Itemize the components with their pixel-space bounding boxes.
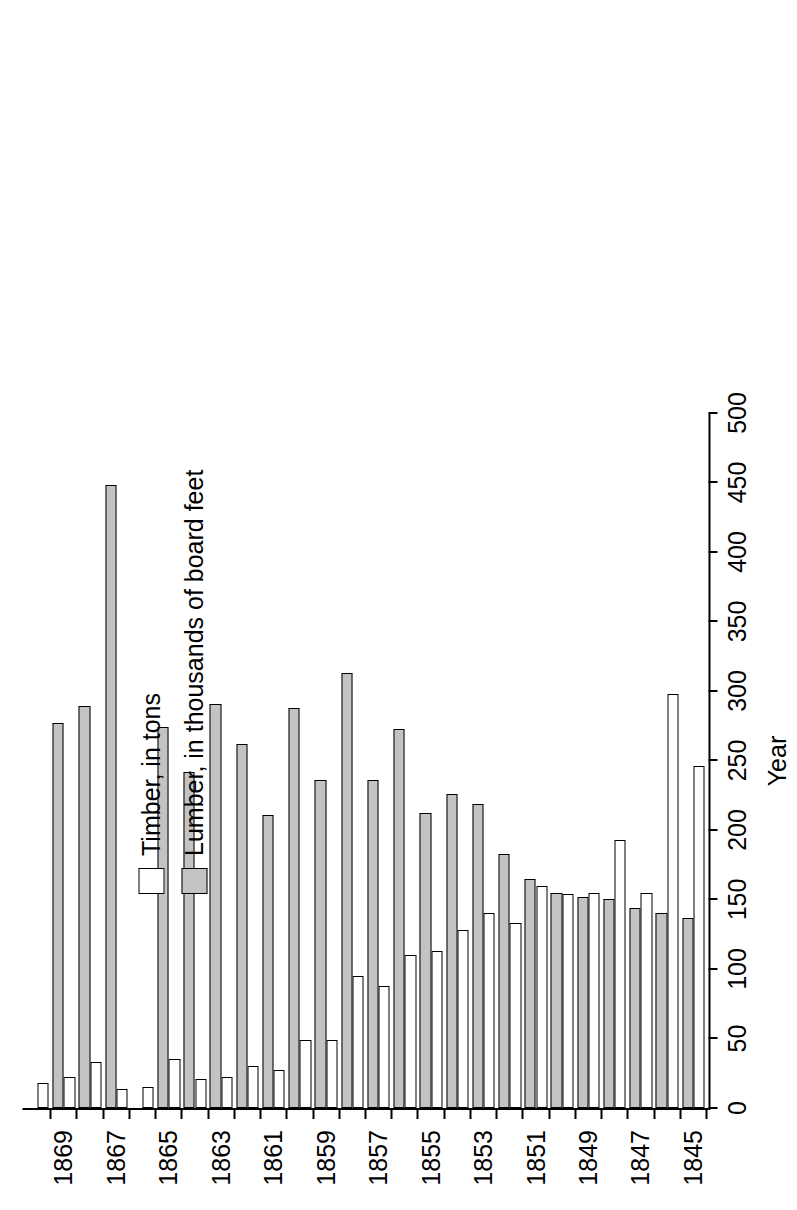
bar-timber-1852 xyxy=(509,923,520,1108)
gray-square-swatch-icon xyxy=(181,868,207,894)
category-axis-tick xyxy=(443,1110,445,1119)
bar-timber-1860 xyxy=(299,1040,310,1108)
bar-lumber-1868 xyxy=(78,706,89,1108)
bar-lumber-1858 xyxy=(341,673,352,1108)
bar-lumber-1845 xyxy=(682,918,693,1108)
value-axis-tick xyxy=(708,899,717,901)
category-axis-tick xyxy=(653,1110,655,1119)
bar-timber-1845 xyxy=(693,766,704,1108)
category-axis-title: Year xyxy=(762,736,791,787)
value-axis-tick xyxy=(708,1038,717,1040)
bar-lumber-1862 xyxy=(236,744,247,1108)
bar-timber-1863 xyxy=(221,1077,232,1108)
category-axis-tick xyxy=(390,1110,392,1119)
value-axis-tick-label: 150 xyxy=(722,879,751,921)
value-axis-tick-label: 500 xyxy=(722,392,751,434)
category-axis-tick xyxy=(548,1110,550,1119)
bar-timber-1850 xyxy=(562,894,573,1108)
category-axis-tick-label: 1849 xyxy=(573,1130,602,1186)
value-axis-tick xyxy=(708,412,717,414)
value-axis-tick-label: 300 xyxy=(722,670,751,712)
bar-chart-figure: 050100150200250300350400450500 184518471… xyxy=(0,0,797,1210)
category-axis-tick-label: 1857 xyxy=(364,1130,393,1186)
category-axis-tick xyxy=(49,1110,51,1119)
value-axis-tick-label: 350 xyxy=(722,601,751,643)
value-axis-tick xyxy=(708,621,717,623)
category-axis-tick-label: 1853 xyxy=(469,1130,498,1186)
bar-lumber-1851 xyxy=(524,879,535,1108)
bar-lumber-1869 xyxy=(52,723,63,1108)
category-axis-tick xyxy=(574,1110,576,1119)
category-axis-tick xyxy=(521,1110,523,1119)
category-axis-tick xyxy=(679,1110,681,1119)
value-axis-tick-label: 50 xyxy=(722,1025,751,1053)
category-axis-tick xyxy=(102,1110,104,1119)
bar-lumber-1847 xyxy=(629,908,640,1108)
bar-timber-1847 xyxy=(640,893,651,1108)
value-axis-tick-label: 400 xyxy=(722,531,751,573)
value-axis-tick xyxy=(708,482,717,484)
value-axis-tick-label: 450 xyxy=(722,462,751,504)
bar-timber-1854 xyxy=(457,930,468,1108)
value-axis-tick xyxy=(708,760,717,762)
bar-timber-1853 xyxy=(483,913,494,1108)
category-axis-tick xyxy=(180,1110,182,1119)
value-axis-tick-label: 100 xyxy=(722,948,751,990)
bar-lumber-1848 xyxy=(603,900,614,1109)
value-axis-tick-label: 250 xyxy=(722,740,751,782)
plot-area: 050100150200250300350400450500 184518471… xyxy=(0,0,797,1210)
bar-lumber-1861 xyxy=(262,815,273,1108)
value-axis-line xyxy=(708,413,710,1110)
value-axis-tick xyxy=(708,1107,717,1109)
bar-timber-1848 xyxy=(614,840,625,1108)
bar-lumber-1857 xyxy=(367,780,378,1108)
bar-lumber-1867 xyxy=(105,485,116,1108)
category-axis-tick xyxy=(600,1110,602,1119)
category-axis-tick xyxy=(128,1110,130,1119)
bar-timber-1864 xyxy=(195,1079,206,1108)
category-axis-tick xyxy=(495,1110,497,1119)
value-axis-tick xyxy=(708,551,717,553)
category-axis-tick-label: 1861 xyxy=(259,1130,288,1186)
bar-lumber-1856 xyxy=(393,729,404,1108)
category-axis-tick-label: 1851 xyxy=(521,1130,550,1186)
bar-lumber-1854 xyxy=(446,794,457,1108)
category-axis-tick xyxy=(312,1110,314,1119)
category-axis-tick-label: 1865 xyxy=(154,1130,183,1186)
bar-timber-1862 xyxy=(247,1066,258,1108)
bar-timber-1857 xyxy=(378,986,389,1108)
category-axis-tick xyxy=(233,1110,235,1119)
bar-timber-1865 xyxy=(168,1059,179,1108)
bar-lumber-1853 xyxy=(472,804,483,1108)
category-axis-tick xyxy=(154,1110,156,1119)
category-axis-tick-label: 1847 xyxy=(626,1130,655,1186)
category-axis-tick xyxy=(75,1110,77,1119)
category-axis-tick-label: 1859 xyxy=(311,1130,340,1186)
legend-label-timber: Timber, in tons xyxy=(136,693,165,856)
bar-lumber-1859 xyxy=(314,780,325,1108)
bar-timber-1846 xyxy=(667,694,678,1108)
bar-timber-1867 xyxy=(116,1089,127,1108)
bar-timber-1858 xyxy=(352,976,363,1108)
category-axis-tick xyxy=(705,1110,707,1119)
bar-timber-1859 xyxy=(326,1040,337,1108)
bar-timber-1866 xyxy=(142,1087,153,1108)
category-axis-tick xyxy=(285,1110,287,1119)
category-axis-tick-label: 1867 xyxy=(101,1130,130,1186)
bar-timber-1869 xyxy=(63,1077,74,1108)
legend-label-lumber: Lumber, in thousands of board feet xyxy=(179,470,208,856)
chart-legend: Timber, in tons Lumber, in thousands of … xyxy=(136,470,208,894)
category-axis-tick xyxy=(416,1110,418,1119)
category-axis-tick xyxy=(207,1110,209,1119)
category-axis-tick xyxy=(259,1110,261,1119)
bar-timber-1849 xyxy=(588,893,599,1108)
value-axis-tick xyxy=(708,829,717,831)
bar-lumber-1852 xyxy=(498,854,509,1108)
bar-timber-1855 xyxy=(431,951,442,1108)
legend-item-lumber: Lumber, in thousands of board feet xyxy=(179,470,208,894)
category-axis-tick xyxy=(338,1110,340,1119)
category-axis-tick-label: 1855 xyxy=(416,1130,445,1186)
category-axis-tick xyxy=(469,1110,471,1119)
category-axis-tick xyxy=(364,1110,366,1119)
value-axis-tick-label: 200 xyxy=(722,809,751,851)
